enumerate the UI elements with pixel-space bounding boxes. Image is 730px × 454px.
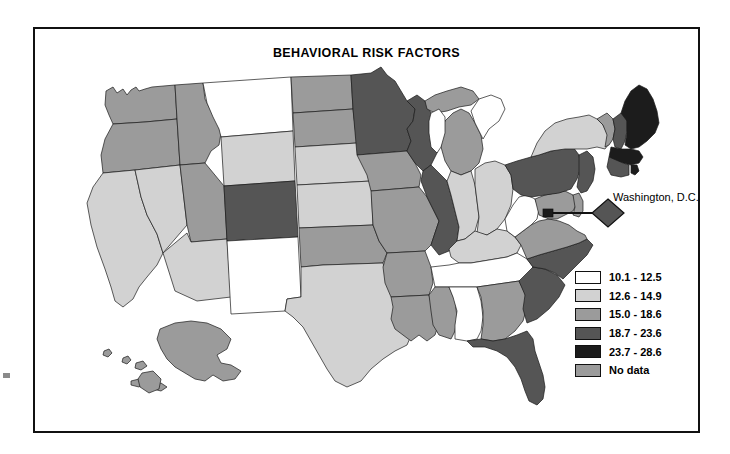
legend-item[interactable]: 15.0 - 18.6 [575, 305, 693, 324]
state-hawaii-big-island[interactable] [138, 371, 161, 393]
legend-label-2: 15.0 - 18.6 [609, 308, 662, 320]
state-georgia[interactable] [477, 281, 527, 341]
states-layer [87, 67, 659, 405]
legend-swatch-3 [575, 327, 601, 340]
state-new-jersey[interactable] [577, 151, 595, 193]
state-minnesota[interactable] [351, 67, 415, 155]
map-frame: BEHAVIORAL RISKFACTORS [33, 27, 700, 433]
state-michigan-up[interactable] [425, 87, 479, 113]
state-florida[interactable] [467, 331, 545, 405]
legend-swatch-2 [575, 308, 601, 321]
state-maine[interactable] [621, 85, 659, 149]
state-wyoming[interactable] [221, 131, 295, 186]
state-rhode-island[interactable] [631, 165, 639, 175]
state-pennsylvania[interactable] [505, 147, 581, 197]
figure-canvas: BEHAVIORAL RISKFACTORS [0, 0, 730, 454]
legend-item[interactable]: 12.6 - 14.9 [575, 287, 693, 306]
state-washington[interactable] [105, 85, 177, 124]
dc-diamond-marker[interactable] [592, 199, 624, 227]
legend-item[interactable]: 18.7 - 23.6 [575, 324, 693, 343]
state-utah[interactable] [180, 163, 227, 242]
map-legend: 10.1 - 12.5 12.6 - 14.9 15.0 - 18.6 18.7… [575, 268, 693, 380]
state-hawaii-oahu[interactable] [122, 356, 131, 364]
edge-artifact-mark [3, 373, 10, 378]
state-colorado[interactable] [224, 181, 298, 241]
legend-label-5: No data [609, 364, 649, 376]
state-kansas[interactable] [297, 181, 373, 228]
state-north-dakota[interactable] [291, 75, 353, 113]
legend-item[interactable]: 23.7 - 28.6 [575, 342, 693, 361]
legend-label-0: 10.1 - 12.5 [609, 271, 662, 283]
legend-item[interactable]: 10.1 - 12.5 [575, 268, 693, 287]
legend-label-3: 18.7 - 23.6 [609, 327, 662, 339]
legend-swatch-1 [575, 289, 601, 302]
state-hawaii-maui[interactable] [135, 361, 147, 370]
legend-swatch-4 [575, 345, 601, 358]
state-oklahoma[interactable] [299, 225, 387, 267]
state-oregon[interactable] [101, 119, 180, 173]
legend-swatch-5 [575, 364, 601, 377]
legend-label-4: 23.7 - 28.6 [609, 346, 662, 358]
dc-leader-anchor [543, 209, 553, 217]
state-arkansas[interactable] [383, 251, 433, 297]
state-alaska[interactable] [157, 321, 241, 381]
legend-item[interactable]: No data [575, 361, 693, 380]
state-hawaii-kauai[interactable] [103, 349, 112, 357]
legend-label-1: 12.6 - 14.9 [609, 290, 662, 302]
legend-swatch-0 [575, 271, 601, 284]
state-south-dakota[interactable] [293, 109, 357, 147]
state-arizona[interactable] [163, 233, 231, 301]
